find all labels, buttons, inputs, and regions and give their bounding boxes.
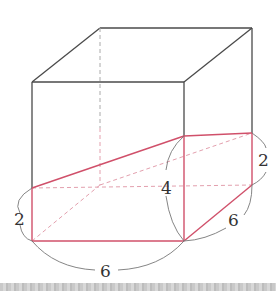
right-depth-label: 6 <box>228 210 239 230</box>
middle-height-label: 4 <box>161 178 172 198</box>
box-edges <box>32 28 252 188</box>
dimension-arcs <box>18 133 266 270</box>
cut-hidden-edges <box>32 128 252 241</box>
cut-edges <box>32 133 252 241</box>
left-height-label: 2 <box>14 209 25 229</box>
bottom-border-band <box>0 283 276 291</box>
right-height-label: 2 <box>258 150 269 170</box>
cuboid-diagram: 2 6 4 6 2 <box>0 0 276 291</box>
front-length-label: 6 <box>100 261 111 281</box>
